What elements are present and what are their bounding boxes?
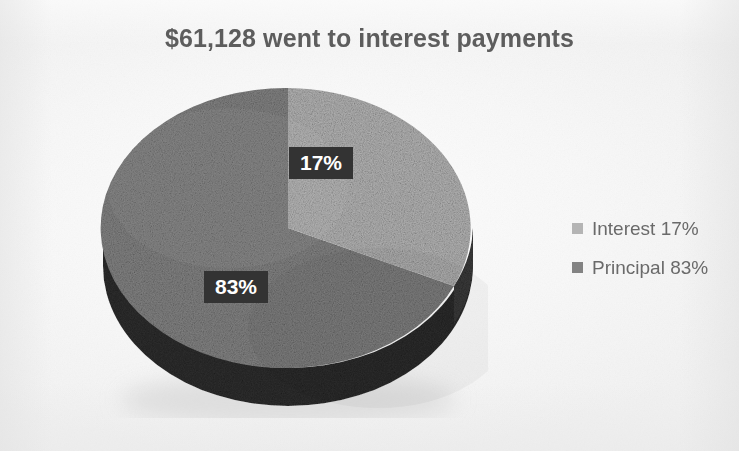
legend-label-principal: Principal 83% bbox=[592, 258, 708, 277]
chart-title: $61,128 went to interest payments bbox=[0, 24, 739, 53]
pie-highlight bbox=[108, 108, 348, 268]
chart-legend: Interest 17% Principal 83% bbox=[572, 219, 737, 297]
data-label-interest: 17% bbox=[289, 147, 353, 179]
legend-swatch-principal-icon bbox=[572, 262, 583, 273]
legend-swatch-interest-icon bbox=[572, 223, 583, 234]
legend-item-interest: Interest 17% bbox=[572, 219, 737, 238]
data-label-principal: 83% bbox=[204, 271, 268, 303]
legend-item-principal: Principal 83% bbox=[572, 258, 737, 277]
pie-chart-image: $61,128 went to interest payments bbox=[0, 0, 739, 451]
pie-graphic bbox=[88, 78, 488, 418]
legend-label-interest: Interest 17% bbox=[592, 219, 699, 238]
pie-svg bbox=[88, 78, 488, 418]
